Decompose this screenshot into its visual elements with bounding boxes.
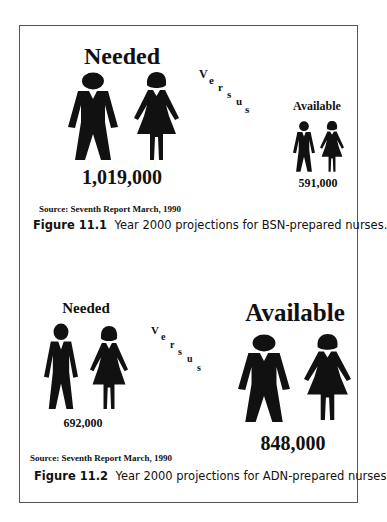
versus-letter: s <box>197 363 201 373</box>
versus-letter: V <box>199 68 208 80</box>
available-heading: Available <box>293 99 341 114</box>
versus-letter: e <box>209 75 214 86</box>
man-silhouette-icon <box>293 121 315 173</box>
needed-heading: Needed <box>62 300 110 317</box>
caption-label: Figure 11.1 <box>33 218 107 232</box>
caption-label: Figure 11.2 <box>34 469 108 483</box>
available-value: 591,000 <box>299 176 338 191</box>
available-heading: Available <box>245 299 345 327</box>
man-silhouette-icon <box>68 72 118 162</box>
woman-silhouette-icon <box>320 121 344 173</box>
man-silhouette-icon <box>44 323 78 411</box>
figure-caption: Figure 11.1 Year 2000 projections for BS… <box>33 218 387 232</box>
available-value: 848,000 <box>261 432 326 455</box>
woman-silhouette-icon <box>90 326 128 411</box>
versus-letter: r <box>218 82 223 93</box>
woman-silhouette-icon <box>133 72 180 162</box>
caption-text: Year 2000 projections for ADN-prepared n… <box>115 469 386 483</box>
source-note: Source: Seventh Report March, 1990 <box>39 204 181 214</box>
versus-letter: s <box>245 104 249 115</box>
versus-letter: e <box>161 332 165 342</box>
figure-caption: Figure 11.2 Year 2000 projections for AD… <box>34 469 386 483</box>
versus-letter: V <box>151 325 159 336</box>
versus-letter: s <box>178 347 182 357</box>
needed-value: 1,019,000 <box>82 166 162 189</box>
versus-letter: u <box>236 96 242 107</box>
caption-text: Year 2000 projections for BSN-prepared n… <box>114 218 387 232</box>
versus-letter: u <box>187 354 193 364</box>
woman-silhouette-icon <box>304 334 351 422</box>
source-note: Source: Seventh Report March, 1990 <box>30 453 172 463</box>
needed-value: 692,000 <box>64 416 103 431</box>
needed-heading: Needed <box>84 43 160 70</box>
man-silhouette-icon <box>238 334 290 424</box>
versus-letter: r <box>170 340 174 350</box>
versus-letter: s <box>227 89 231 100</box>
